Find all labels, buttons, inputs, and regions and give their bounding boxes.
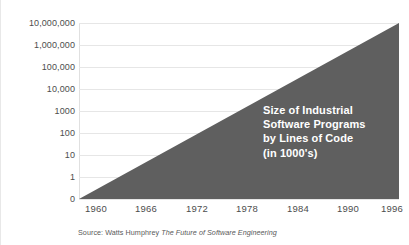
chart-figure: 10,000,000 1,000,000 100,000 10,000 1000… [0,0,409,245]
x-tick-label: 1984 [276,203,320,215]
x-tick-label: 1978 [225,203,269,215]
y-tick-label: 1,000,000 [3,40,75,50]
y-tick-label: 100,000 [3,62,75,72]
x-tick-label: 1966 [124,203,168,215]
x-tick-label: 1990 [326,203,370,215]
y-tick-label: 10,000 [3,84,75,94]
y-tick-label: 10,000,000 [3,18,75,28]
y-axis-tick-labels: 10,000,000 1,000,000 100,000 10,000 1000… [1,0,75,245]
annotation-line: Software Programs [263,117,399,131]
source-title: The Future of Software Engineering [161,228,277,237]
annotation-line: (in 1000's) [263,146,399,160]
y-tick-label: 100 [3,128,75,138]
y-tick-label: 1000 [3,106,75,116]
y-tick-label: 10 [3,150,75,160]
x-tick-label: 1996 [370,203,409,215]
x-tick-label: 1960 [74,203,118,215]
annotation-line: Size of Industrial [263,103,399,117]
y-tick-label: 1 [3,172,75,182]
source-prefix: Source: Watts Humphrey [78,228,159,237]
source-note: Source: Watts Humphrey The Future of Sof… [78,228,277,237]
gridline [79,199,399,200]
x-axis-tick-labels: 1960 1966 1972 1978 1984 1990 1996 [79,203,399,217]
chart-annotation: Size of Industrial Software Programs by … [263,103,399,160]
x-tick-label: 1972 [175,203,219,215]
annotation-line: by Lines of Code [263,131,399,145]
y-tick-label: 0 [3,194,75,204]
